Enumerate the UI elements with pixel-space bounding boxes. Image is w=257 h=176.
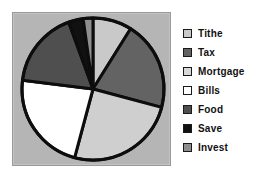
legend-item-bills[interactable]: Bills <box>183 81 257 100</box>
legend-label-tax: Tax <box>198 47 215 58</box>
legend-swatch-tithe <box>183 29 192 38</box>
legend-swatch-save <box>183 124 192 133</box>
legend-item-invest[interactable]: Invest <box>183 138 257 157</box>
legend-label-mortgage: Mortgage <box>198 66 245 77</box>
legend-swatch-invest <box>183 143 192 152</box>
legend-swatch-tax <box>183 48 192 57</box>
legend-label-food: Food <box>198 104 223 115</box>
legend-label-invest: Invest <box>198 142 228 153</box>
chart-legend: Tithe Tax Mortgage Bills Food Save Inves… <box>183 24 257 157</box>
legend-item-mortgage[interactable]: Mortgage <box>183 62 257 81</box>
legend-swatch-food <box>183 105 192 114</box>
pie-chart-svg <box>13 13 172 167</box>
chart-plot-area <box>12 12 171 166</box>
legend-item-food[interactable]: Food <box>183 100 257 119</box>
legend-label-tithe: Tithe <box>198 28 223 39</box>
legend-label-bills: Bills <box>198 85 220 96</box>
legend-label-save: Save <box>198 123 222 134</box>
legend-item-save[interactable]: Save <box>183 119 257 138</box>
legend-item-tithe[interactable]: Tithe <box>183 24 257 43</box>
legend-swatch-mortgage <box>183 67 192 76</box>
pie-chart-screenshot: Tithe Tax Mortgage Bills Food Save Inves… <box>0 0 257 176</box>
legend-swatch-bills <box>183 86 192 95</box>
legend-item-tax[interactable]: Tax <box>183 43 257 62</box>
